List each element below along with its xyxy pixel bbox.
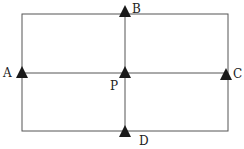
triangle-marker-a-icon bbox=[16, 66, 28, 78]
diagram-canvas: A B C D P bbox=[0, 0, 244, 149]
triangle-marker-b-icon bbox=[119, 5, 131, 17]
label-c: C bbox=[233, 67, 242, 81]
label-d: D bbox=[139, 134, 149, 148]
label-a: A bbox=[2, 66, 12, 80]
label-p: P bbox=[110, 79, 118, 93]
label-b: B bbox=[132, 2, 141, 16]
markers bbox=[16, 5, 232, 137]
triangle-marker-c-icon bbox=[220, 68, 232, 80]
triangle-marker-p-icon bbox=[119, 66, 131, 78]
